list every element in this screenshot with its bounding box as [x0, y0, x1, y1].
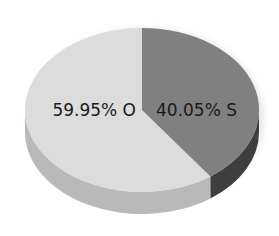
- slice-s-label: 40.05% S: [156, 100, 237, 120]
- pie-chart: 59.95% O 40.05% S: [0, 0, 279, 236]
- slice-o-label: 59.95% O: [52, 100, 136, 120]
